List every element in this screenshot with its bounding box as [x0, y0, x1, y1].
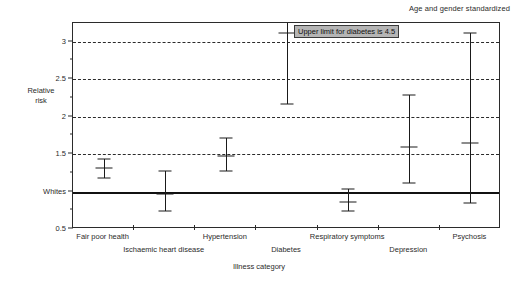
y-tick-label-0-5: 0.5 [0, 224, 66, 233]
x-category-label-diabetes: Diabetes [271, 245, 301, 254]
error-bar-lower-cap [464, 202, 477, 203]
y-tick-label-3: 3 [0, 36, 66, 45]
x-category-label-respiratory-symptoms: Respiratory symptoms [310, 232, 385, 241]
x-tick-mark [255, 225, 256, 230]
x-tick-mark [439, 225, 440, 230]
x-category-label-hypertension: Hypertension [203, 232, 247, 241]
x-category-label-fair-poor-health: Fair poor health [76, 232, 129, 241]
x-tick-mark [194, 225, 195, 230]
plot-area [72, 22, 500, 228]
error-bar-upper-cap [464, 32, 477, 33]
error-bar-line [470, 33, 471, 203]
x-category-label-ischaemic-heart-disease: Ischaemic heart disease [123, 245, 204, 254]
y-tick-label-1-5: 1.5 [0, 149, 66, 158]
relative-risk-error-bar-chart: Age and gender standardized Relative ris… [0, 0, 518, 284]
y-tick-label-2: 2 [0, 111, 66, 120]
error-bar-group [73, 23, 499, 227]
x-tick-mark [133, 225, 134, 230]
x-axis-title: Illness category [0, 262, 518, 271]
x-category-label-depression: Depression [389, 245, 427, 254]
point-estimate-marker [462, 142, 479, 143]
x-tick-mark [317, 225, 318, 230]
diabetes-upper-limit-annotation: Upper limit for diabetes is 4.5 [294, 25, 399, 38]
y-tick-label-whites: Whites [0, 186, 66, 195]
x-tick-mark [378, 225, 379, 230]
y-tick-label-2-5: 2.5 [0, 74, 66, 83]
x-category-label-psychosis: Psychosis [453, 232, 487, 241]
